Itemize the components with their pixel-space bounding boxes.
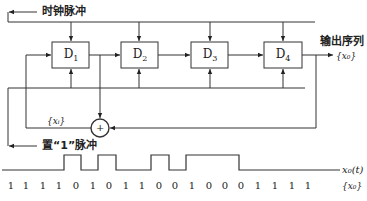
bit: 1 (137, 180, 147, 191)
d1-label: D1 (52, 47, 90, 63)
d2-label: D2 (121, 47, 159, 63)
output-seq-label: {x₀} (336, 50, 356, 62)
set-label: 置“1”脉冲 (42, 140, 97, 152)
bit: 0 (71, 180, 81, 191)
clock-label: 时钟脉冲 (42, 6, 86, 18)
xor-symbol: + (96, 122, 104, 134)
d4-label: D4 (264, 47, 302, 63)
feedback-label: {xᵢ} (47, 115, 65, 127)
lfsr-diagram (0, 0, 367, 201)
bit: 0 (104, 180, 114, 191)
sequence-label: {x₀} (342, 180, 362, 192)
bit: 0 (154, 180, 164, 191)
output-label: 输出序列 (320, 36, 364, 48)
waveform-label: x₀(t) (342, 164, 363, 176)
bit: 0 (236, 180, 246, 191)
bit: 1 (121, 180, 131, 191)
bit: 1 (21, 180, 31, 191)
bit: 0 (204, 180, 214, 191)
bit: 1 (88, 180, 98, 191)
bit: 1 (54, 180, 64, 191)
bit: 0 (220, 180, 230, 191)
bit: 1 (287, 180, 297, 191)
waveform (2, 155, 340, 170)
bit: 1 (187, 180, 197, 191)
d3-label: D3 (191, 47, 229, 63)
bit: 1 (270, 180, 280, 191)
bit: 1 (303, 180, 313, 191)
bit: 1 (38, 180, 48, 191)
bit: 1 (253, 180, 263, 191)
bit: 1 (6, 180, 16, 191)
bit: 0 (170, 180, 180, 191)
